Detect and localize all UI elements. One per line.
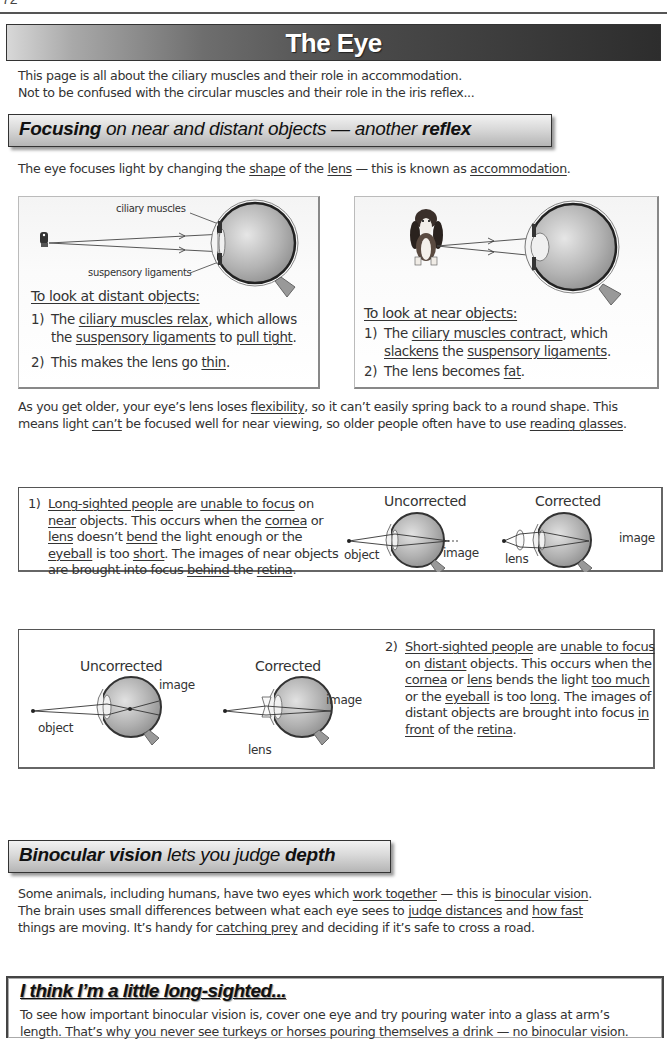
keyword: retina (257, 562, 293, 577)
short-sighted-box: Uncorrected Corrected (18, 629, 655, 769)
label-ciliary-muscles: ciliary muscles (116, 203, 186, 214)
item-number: 1) (31, 311, 51, 329)
short-label-image: image (159, 678, 195, 692)
near-item-2: 2)The lens becomes fat. (364, 363, 525, 381)
section-heading-focusing: Focusing on near and distant objects — a… (8, 114, 552, 147)
item-number: 2) (31, 354, 51, 372)
text: . (513, 722, 517, 737)
long-label-image: image (443, 546, 479, 560)
keyword: lens (467, 672, 492, 687)
text: , which (562, 326, 607, 341)
distant-heading-text: To look at distant objects: (31, 288, 200, 304)
distant-objects-box: ciliary muscles suspensory ligaments To … (18, 196, 320, 389)
short-label-object: object (38, 721, 73, 735)
long-label-image-corrected: image (619, 531, 655, 545)
heading-mid: on near and distant objects — another (101, 118, 422, 139)
text-line: front of the retina. (385, 722, 655, 739)
distant-heading: To look at distant objects: (31, 288, 200, 304)
text: the (51, 330, 76, 345)
text: The (384, 326, 412, 341)
older-line-2: means light can’t be focused well for ne… (18, 415, 663, 432)
keyword: suspensory ligaments (467, 344, 607, 359)
tip-box: I think I’m a little long-sighted... To … (6, 976, 664, 1038)
keyword: unable to focus (200, 496, 294, 511)
text-line: 2)Short-sighted people are unable to foc… (385, 639, 655, 656)
text: , which allows (208, 312, 297, 327)
keyword: flexibility (251, 399, 304, 414)
text: doesn’t (73, 529, 126, 544)
text: Some animals, including humans, have two… (18, 886, 353, 901)
text-line: eyeball is too short. The images of near… (28, 546, 348, 563)
text-line: 1)Long-sighted people are unable to focu… (28, 496, 348, 513)
heading-mid: lets you judge (162, 844, 285, 865)
text-line: are brought into focus behind the retina… (28, 562, 348, 579)
short-sighted-text: 2)Short-sighted people are unable to foc… (385, 639, 655, 739)
keyword: cornea (405, 672, 447, 687)
text: . (623, 416, 627, 431)
keyword: in (638, 705, 649, 720)
text: The lens becomes (384, 364, 504, 379)
text: or (447, 672, 467, 687)
distant-item-1: 1)The ciliary muscles relax, which allow… (31, 311, 321, 347)
text: means light (18, 416, 92, 431)
text: is too (489, 689, 530, 704)
heading-bold-focusing: Focusing (19, 118, 101, 139)
keyword: thin (201, 355, 226, 370)
text: . (292, 330, 296, 345)
keyword: pull tight (236, 330, 292, 345)
text-line: cornea or lens bends the light too much (385, 672, 655, 689)
near-item-1: 1)The ciliary muscles contract, which sl… (364, 325, 658, 361)
long-label-object: object (344, 548, 379, 562)
keyword: suspensory ligaments (76, 330, 216, 345)
text: — this is (437, 886, 495, 901)
eyeball-icon (525, 201, 621, 305)
older-paragraph: As you get older, your eye’s lens loses … (18, 398, 663, 432)
keyword: shape (249, 161, 285, 176)
text: , so it can’t easily spring back to a ro… (304, 399, 617, 414)
text-line: on distant objects. This occurs when the (385, 656, 655, 673)
keyword: bend (126, 529, 157, 544)
long-uncorrected-caption: Uncorrected (384, 493, 466, 509)
text-line: Some animals, including humans, have two… (18, 885, 663, 902)
text: the (438, 344, 467, 359)
tip-line-2: length. That’s why you never see turkeys… (20, 1023, 660, 1040)
keyword: short (133, 546, 164, 561)
text: of the (434, 722, 477, 737)
text: This makes the lens go (51, 355, 201, 370)
keyword: cornea (265, 513, 307, 528)
distant-dog-icon (40, 232, 48, 247)
item-number: 1) (28, 496, 48, 513)
text: The eye focuses light by changing the (18, 161, 249, 176)
near-heading-text: To look at near objects: (364, 305, 517, 321)
text: . (588, 886, 592, 901)
item-number: 1) (364, 325, 384, 343)
keyword: slackens (384, 344, 438, 359)
keyword: lens (327, 161, 351, 176)
text: — this is known as (352, 161, 470, 176)
text: be focused well for near viewing, so old… (122, 416, 530, 431)
text-line: distant objects are brought into focus i… (385, 705, 655, 722)
long-sighted-box: 1)Long-sighted people are unable to focu… (18, 487, 663, 572)
text: . (567, 161, 571, 176)
keyword: work together (353, 886, 437, 901)
keyword: lens (48, 529, 73, 544)
page-title: The Eye (7, 28, 660, 59)
near-heading: To look at near objects: (364, 305, 517, 321)
tip-line-1: To see how important binocular vision is… (20, 1006, 660, 1023)
keyword: distant (424, 656, 466, 671)
heading-bold-reflex: reflex (422, 118, 471, 139)
short-label-image-corrected: image (326, 693, 362, 707)
text: or the (405, 689, 445, 704)
intro-text: This page is all about the ciliary muscl… (18, 67, 658, 101)
text: . (292, 562, 296, 577)
keyword: can’t (92, 416, 122, 431)
title-banner: The Eye (6, 24, 661, 61)
text: the (229, 562, 257, 577)
text: and deciding if it’s safe to cross a roa… (298, 920, 535, 935)
keyword: ciliary muscles relax (79, 312, 208, 327)
item-number: 2) (385, 639, 405, 656)
page-number: 72 (2, 0, 18, 7)
keyword: binocular vision (495, 886, 589, 901)
long-sighted-diagram (339, 510, 659, 572)
text: bends the light (492, 672, 591, 687)
